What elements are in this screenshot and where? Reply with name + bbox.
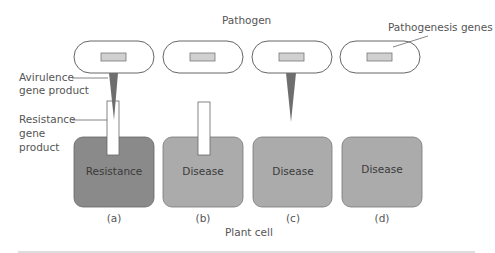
outcome-c: Disease xyxy=(253,165,333,177)
label-pathogenesis-genes: Pathogenesis genes xyxy=(388,21,493,34)
panel-label-b: (b) xyxy=(163,212,243,224)
outcome-d: Disease xyxy=(342,163,422,175)
title-pathogen: Pathogen xyxy=(222,14,271,27)
pathogen-c xyxy=(252,41,332,73)
panel-label-a: (a) xyxy=(74,212,154,224)
resistance-product-b xyxy=(198,102,210,155)
panel-label-c: (c) xyxy=(253,212,333,224)
label-plant-cell: Plant cell xyxy=(225,226,273,239)
pathogen-b xyxy=(163,41,243,73)
panel-label-d: (d) xyxy=(342,212,422,224)
label-resistance-2: gene xyxy=(19,127,45,140)
label-resistance-3: product xyxy=(19,141,59,154)
outcome-b: Disease xyxy=(163,165,243,177)
pathogen-a xyxy=(74,41,154,73)
label-avirulence-2: gene product xyxy=(19,84,89,97)
label-avirulence-1: Avirulence xyxy=(19,71,74,84)
label-resistance-1: Resistance xyxy=(19,113,76,126)
pathogen-d xyxy=(340,41,420,73)
avirulence-product-c xyxy=(286,73,296,122)
outcome-a: Resistance xyxy=(74,165,154,177)
